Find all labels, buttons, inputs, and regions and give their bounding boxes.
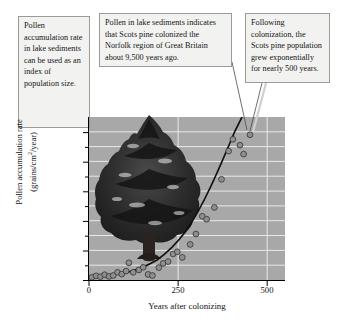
y-axis-units-prefix: (grains/cm: [27, 155, 37, 192]
x-tick-label: 500: [261, 286, 274, 295]
scatter-points: [89, 132, 253, 280]
annotation-right: Following colonization, the Scots pine p…: [245, 13, 330, 83]
x-axis-title: Years after colonizing: [89, 301, 285, 311]
y-axis-units-exponent: 2: [27, 152, 33, 155]
y-tick-labels: 50,000 40,000 30,000 20,000 10,000 0: [0, 0, 86, 323]
y-axis-title-line1: Pollen accumulation rate: [14, 119, 24, 204]
y-axis-line: [88, 117, 89, 281]
annotation-middle: Pollen in lake sediments indicates that …: [99, 13, 232, 67]
y-axis-title-line2: (grains/cm2/year): [25, 87, 38, 237]
y-axis-title: Pollen accumulation rate (grains/cm2/yea…: [14, 87, 38, 237]
x-tick-label: 0: [87, 286, 91, 295]
x-tick-label: 250: [172, 286, 185, 295]
exponential-fit-curve: [92, 117, 243, 277]
x-axis-line: [88, 280, 285, 281]
y-axis-units-suffix: /year): [27, 132, 37, 152]
data-series: [89, 117, 285, 280]
figure-root: 50,000 40,000 30,000 20,000 10,000 0 0 2…: [0, 0, 344, 323]
x-tick-labels: 0 250 500: [0, 286, 344, 300]
